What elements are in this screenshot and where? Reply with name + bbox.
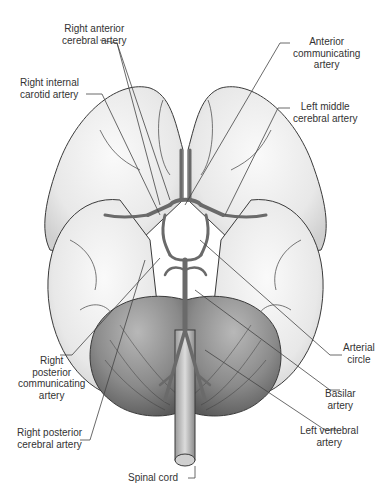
- label-left-middle-cerebral-artery: Left middle cerebral artery: [293, 101, 357, 124]
- label-left-vertebral-artery: Left vertebral artery: [300, 425, 358, 448]
- label-right-anterior-cerebral-artery: Right anterior cerebral artery: [62, 23, 126, 46]
- label-arterial-circle: Arterial circle: [343, 342, 375, 365]
- label-right-internal-carotid-artery: Right internal carotid artery: [20, 77, 79, 100]
- label-right-posterior-communicating-artery: Right posterior communicating artery: [18, 355, 85, 401]
- label-anterior-communicating-artery: Anterior communicating artery: [293, 36, 360, 71]
- label-basilar-artery: Basilar artery: [325, 388, 356, 411]
- label-spinal-cord: Spinal cord: [128, 472, 178, 484]
- label-right-posterior-cerebral-artery: Right posterior cerebral artery: [17, 427, 82, 450]
